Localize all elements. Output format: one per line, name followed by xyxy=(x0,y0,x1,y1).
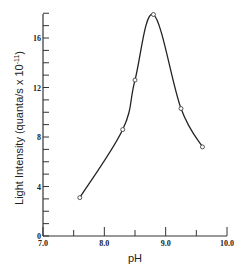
data-line xyxy=(80,14,203,198)
data-point-marker xyxy=(200,145,204,149)
ph-light-intensity-chart: 04812167.08.09.010.0 pH Light Intensity … xyxy=(0,0,245,271)
data-point-marker xyxy=(121,128,125,132)
x-axis-label: pH xyxy=(128,252,142,264)
y-axis-label: Light Intensity (quanta/s x 10-11) xyxy=(13,51,25,205)
y-tick-label: 12 xyxy=(33,84,41,93)
y-axis-label-main: Light Intensity (quanta/s x 10 xyxy=(13,64,25,205)
data-point-marker xyxy=(179,107,183,111)
y-tick-label: 8 xyxy=(37,133,41,142)
y-axis-label-close: ) xyxy=(13,51,25,55)
data-point-marker xyxy=(78,196,82,200)
data-point-marker xyxy=(151,12,155,16)
x-tick-label: 9.0 xyxy=(161,239,171,248)
data-point-marker xyxy=(133,78,137,82)
x-tick-label: 8.0 xyxy=(99,239,109,248)
x-tick-label: 10.0 xyxy=(220,239,234,248)
x-tick-label: 7.0 xyxy=(38,239,48,248)
axes: 04812167.08.09.010.0 xyxy=(33,13,234,248)
y-axis-label-exponent: -11 xyxy=(13,55,20,65)
y-tick-label: 16 xyxy=(33,34,41,43)
y-tick-label: 4 xyxy=(37,183,41,192)
data-curve xyxy=(80,14,203,198)
